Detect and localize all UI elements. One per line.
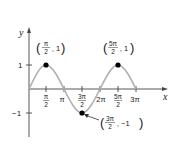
min-point [79,110,84,115]
svg-text:): ) [139,115,143,130]
svg-text:2: 2 [111,48,115,55]
svg-text:): ) [130,40,134,55]
svg-text:2π: 2π [96,95,105,104]
svg-text:3π: 3π [78,93,87,100]
svg-text:π: π [44,40,49,47]
x-axis-label: x [162,91,168,102]
max-point-2 [115,62,120,67]
svg-text:π: π [44,93,49,100]
svg-text:2: 2 [80,101,84,108]
annotation-3pi-half: ( 3π 2 , −1 ) [100,115,143,130]
annotation-pi-half: ( π 2 , 1 ) [36,40,65,55]
svg-text:,: , [52,45,54,52]
svg-text:,: , [117,120,119,127]
sine-chart: y x 1 −1 π 2 π 3π 2 2π 5π 2 3π ( π 2 , 1… [0,0,182,152]
y-axis-label: y [18,27,24,38]
svg-text:1: 1 [124,44,128,53]
annotation-5pi-half: ( 5π 2 , 1 ) [103,40,134,55]
svg-text:π: π [59,95,64,104]
svg-text:(: ( [36,40,41,55]
y-axis-arrow-icon [27,27,31,33]
svg-text:2: 2 [44,48,48,55]
svg-text:−1: −1 [121,119,130,128]
max-point-1 [43,62,48,67]
svg-text:): ) [61,40,65,55]
svg-text:2: 2 [108,123,112,130]
svg-text:2: 2 [44,101,48,108]
y-tick-neg1: −1 [12,109,22,118]
svg-text:(: ( [103,40,108,55]
svg-text:3π: 3π [106,115,115,122]
svg-text:2: 2 [116,101,120,108]
svg-text:5π: 5π [109,40,118,47]
axes [29,31,164,137]
svg-text:1: 1 [56,44,60,53]
y-tick-1: 1 [18,61,23,70]
svg-text:3π: 3π [130,95,139,104]
svg-text:(: ( [100,115,105,130]
svg-text:5π: 5π [114,93,123,100]
svg-text:,: , [120,45,122,52]
